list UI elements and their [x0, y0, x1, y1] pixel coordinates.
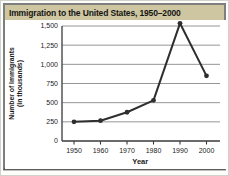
immigration-line-chart: 02505007501,0001,2501,500195019601970198…: [5, 20, 226, 169]
data-line: [74, 23, 207, 122]
y-tick-label: 750: [46, 80, 58, 87]
y-axis-title-line: (in thousands): [16, 60, 24, 107]
x-tick-label: 1950: [66, 147, 82, 154]
y-tick-label: 1,500: [40, 22, 58, 29]
x-tick-label: 2000: [199, 147, 215, 154]
data-point: [125, 110, 130, 115]
y-axis-title-line: Number of Immigrants: [8, 47, 16, 120]
data-point: [151, 98, 156, 103]
x-tick-label: 1990: [172, 147, 188, 154]
y-tick-label: 0: [54, 137, 58, 144]
figure-title: Immigration to the United States, 1950–2…: [9, 8, 181, 18]
data-point: [98, 118, 103, 123]
data-point: [204, 73, 209, 78]
x-tick-label: 1980: [146, 147, 162, 154]
x-tick-label: 1970: [119, 147, 135, 154]
chart-area: 02505007501,0001,2501,500195019601970198…: [5, 20, 226, 169]
figure-title-bar: Immigration to the United States, 1950–2…: [5, 5, 224, 20]
page: Immigration to the United States, 1950–2…: [0, 0, 229, 176]
immigration-figure: Immigration to the United States, 1950–2…: [3, 3, 226, 170]
y-tick-label: 500: [46, 99, 58, 106]
data-point: [178, 21, 183, 26]
y-tick-label: 250: [46, 118, 58, 125]
y-tick-label: 1,000: [40, 61, 58, 68]
y-tick-label: 1,250: [40, 42, 58, 49]
y-axis-title: Number of Immigrants(in thousands): [8, 47, 24, 120]
data-point: [72, 119, 77, 124]
x-tick-label: 1960: [93, 147, 109, 154]
x-axis-title: Year: [132, 157, 148, 166]
